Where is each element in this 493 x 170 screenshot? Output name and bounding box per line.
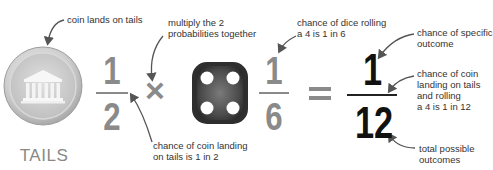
- coin-fraction-numerator: 1: [100, 52, 125, 90]
- dice-four-icon: [191, 61, 249, 125]
- arrow-dice-fraction: [280, 36, 296, 50]
- arrow-result-fraction: [390, 76, 414, 90]
- coin-annotation: coin lands on tails: [67, 14, 143, 25]
- arrow-coin-tails: [48, 20, 64, 42]
- dice-fraction-numerator: 1: [263, 52, 286, 90]
- dice-fraction-bar: [259, 92, 289, 94]
- result-fraction-annotation: chance of coin landing on tails and roll…: [417, 68, 480, 112]
- specific-outcome-annotation: chance of specific outcome: [417, 27, 493, 49]
- total-outcomes-annotation: total possible outcomes: [419, 143, 474, 165]
- coin-fraction-annotation: chance of coin landing on tails is 1 in …: [153, 140, 248, 162]
- coin-fraction-bar: [96, 92, 128, 94]
- coin-temple-icon: [3, 46, 83, 126]
- multiply-annotation: multiply the 2 probabilities together: [168, 17, 256, 39]
- result-fraction-bar: [347, 94, 397, 96]
- coin: [3, 46, 83, 126]
- dice: [191, 61, 249, 125]
- multiply-operator: ×: [140, 73, 170, 107]
- arrow-total-outcomes: [390, 136, 415, 148]
- coin-label: TAILS: [4, 146, 84, 166]
- dice-fraction-denominator: 6: [263, 98, 286, 136]
- equals-operator: =: [309, 87, 331, 100]
- dice-fraction-annotation: chance of dice rolling a 4 is 1 in 6: [297, 17, 386, 39]
- result-fraction-numerator: 1: [355, 48, 390, 92]
- coin-fraction-denominator: 2: [100, 98, 125, 136]
- result-fraction-denominator: 12: [355, 101, 390, 145]
